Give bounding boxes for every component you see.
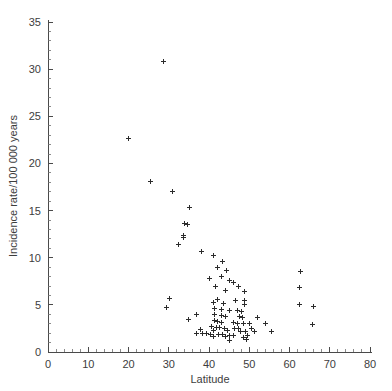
data-point — [223, 314, 228, 319]
data-point — [211, 253, 216, 258]
data-point — [241, 321, 246, 326]
data-point — [221, 301, 226, 306]
data-point — [239, 309, 244, 314]
data-point — [249, 326, 254, 331]
y-axis-ticks — [48, 22, 53, 352]
y-axis-title: Incidence rate/100 000 years — [7, 115, 19, 257]
x-tick-label: 0 — [45, 358, 51, 370]
x-tick-label: 30 — [163, 358, 175, 370]
data-point — [167, 296, 172, 301]
y-tick-label: 25 — [29, 110, 41, 122]
data-point — [212, 318, 217, 323]
data-point — [269, 329, 274, 334]
data-point — [255, 315, 260, 320]
data-point — [310, 322, 315, 327]
data-point — [252, 329, 257, 334]
data-point — [212, 312, 217, 317]
data-point — [236, 284, 241, 289]
data-point — [199, 249, 204, 254]
data-point — [297, 285, 302, 290]
data-point — [211, 334, 216, 339]
data-point — [211, 300, 216, 305]
data-point — [181, 235, 186, 240]
data-point — [219, 274, 224, 279]
data-point — [242, 298, 247, 303]
x-axis-title: Latitude — [190, 373, 229, 385]
data-point — [208, 332, 213, 337]
x-tick-label: 40 — [203, 358, 215, 370]
data-point — [164, 305, 169, 310]
y-tick-label: 30 — [29, 63, 41, 75]
data-point — [212, 306, 217, 311]
data-point — [219, 320, 224, 325]
data-point — [187, 205, 192, 210]
data-point — [215, 265, 220, 270]
data-point — [227, 338, 232, 343]
axes-group — [48, 20, 372, 352]
data-point — [224, 268, 229, 273]
data-point — [235, 308, 240, 313]
data-point — [215, 319, 220, 324]
data-point — [242, 302, 247, 307]
data-point — [235, 321, 240, 326]
data-point-markers — [126, 59, 316, 343]
data-point — [263, 321, 268, 326]
x-tick-label: 70 — [324, 358, 336, 370]
data-point — [247, 321, 252, 326]
x-axis-ticks — [48, 347, 370, 352]
data-point — [213, 284, 218, 289]
y-tick-label: 35 — [29, 16, 41, 28]
data-point — [231, 320, 236, 325]
data-point — [233, 298, 238, 303]
data-point — [242, 289, 247, 294]
data-point — [220, 259, 225, 264]
data-point — [194, 331, 199, 336]
data-point — [237, 314, 242, 319]
data-point — [219, 307, 224, 312]
data-point — [243, 329, 248, 334]
data-point — [161, 59, 166, 64]
data-point — [186, 317, 191, 322]
y-tick-label: 20 — [29, 157, 41, 169]
y-tick-label: 5 — [35, 299, 41, 311]
data-point — [297, 302, 302, 307]
y-tick-label: 0 — [35, 346, 41, 358]
data-point — [223, 288, 228, 293]
data-point — [126, 136, 131, 141]
y-tick-label: 10 — [29, 252, 41, 264]
y-axis-tick-labels: 05101520253035 — [29, 16, 41, 358]
data-point — [298, 269, 303, 274]
plot-canvas: 01020304050607080 05101520253035 Latitud… — [0, 0, 392, 391]
x-axis-tick-labels: 01020304050607080 — [45, 358, 376, 370]
data-point — [240, 315, 245, 320]
y-tick-label: 15 — [29, 205, 41, 217]
data-point — [148, 179, 153, 184]
data-point — [207, 276, 212, 281]
data-point — [215, 297, 220, 302]
data-point — [176, 242, 181, 247]
data-point — [182, 221, 187, 226]
data-point — [245, 333, 250, 338]
data-point — [231, 333, 236, 338]
data-point — [227, 308, 232, 313]
data-point — [311, 304, 316, 309]
x-tick-label: 80 — [364, 358, 376, 370]
x-tick-label: 10 — [82, 358, 94, 370]
data-point — [204, 331, 209, 336]
data-point — [217, 325, 222, 330]
data-point — [220, 332, 225, 337]
x-tick-label: 20 — [122, 358, 134, 370]
x-tick-label: 50 — [243, 358, 255, 370]
data-point — [194, 312, 199, 317]
x-tick-label: 60 — [283, 358, 295, 370]
data-point — [219, 313, 224, 318]
scatter-plot-figure: 01020304050607080 05101520253035 Latitud… — [0, 0, 392, 391]
data-point — [170, 189, 175, 194]
data-point — [185, 222, 190, 227]
